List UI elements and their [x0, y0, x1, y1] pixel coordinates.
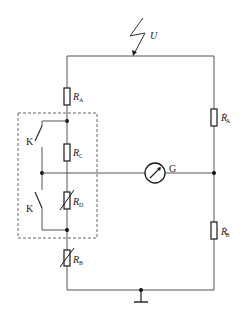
- label-switch-k1: K: [26, 137, 33, 147]
- label-ra: RA: [73, 92, 83, 103]
- source-label: U: [150, 31, 157, 41]
- switch-k1-icon: [35, 126, 42, 141]
- label-rc: RC: [73, 148, 83, 159]
- label-rb-prime: R′B: [221, 226, 230, 238]
- circuit-schematic: [0, 0, 245, 317]
- switch-box-dashed: [18, 113, 97, 238]
- junction-dot: [65, 228, 69, 232]
- resistor-ra-prime: [211, 109, 217, 126]
- galvanometer-icon: [145, 163, 165, 183]
- resistor-rc: [64, 144, 70, 161]
- variable-resistor-rd: [60, 190, 74, 210]
- label-ra-prime: R′A: [221, 112, 230, 124]
- resistor-ra: [64, 88, 70, 105]
- variable-resistor-rb: [60, 248, 74, 267]
- label-rb: RB: [73, 255, 83, 266]
- label-rd: RD: [73, 197, 83, 208]
- switch-k2-wire: [42, 208, 67, 230]
- label-switch-k2: K: [26, 204, 33, 214]
- voltage-source-icon: [130, 18, 145, 56]
- resistor-rb-prime: [211, 222, 217, 239]
- switch-k1-wire: [42, 121, 67, 126]
- circuit-diagram: U RA RC RD RB R′A R′B K K G: [0, 0, 245, 317]
- junction-dot: [212, 171, 216, 175]
- label-galvanometer: G: [169, 164, 176, 174]
- switch-k2-icon: [35, 192, 42, 208]
